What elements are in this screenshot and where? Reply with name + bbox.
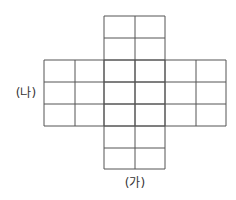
horizontal-strip-label: (나) bbox=[16, 87, 36, 99]
cross-grid-diagram bbox=[0, 0, 236, 200]
horizontal-strip-grid bbox=[44, 60, 226, 126]
vertical-strip-label: (가) bbox=[125, 177, 145, 189]
